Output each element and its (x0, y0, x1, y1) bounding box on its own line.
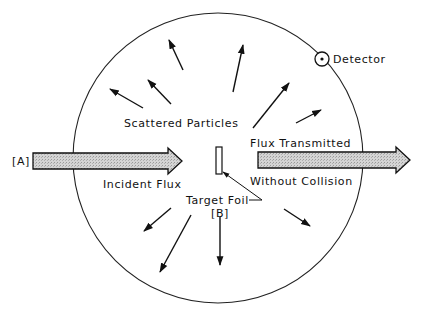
arrow-icon (160, 215, 191, 272)
arrow-icon (169, 40, 183, 70)
marker-a-label: [A] (12, 155, 30, 168)
arrow-icon (110, 89, 143, 108)
scattering-diagram: Detector Scattered Particles [A] Inciden… (0, 0, 422, 316)
marker-b-label: [B] (211, 207, 229, 220)
detector-circle-icon (315, 52, 329, 66)
target-foil (216, 147, 222, 174)
arrow-icon (284, 209, 310, 226)
arrow-icon (253, 83, 289, 128)
arrow-icon (233, 45, 243, 92)
scattered-particles-label: Scattered Particles (124, 117, 238, 130)
arrow-icon (144, 208, 171, 231)
arrow-icon (148, 80, 171, 104)
incident-flux-label: Incident Flux (103, 178, 182, 191)
transmitted-beam-arrow (258, 147, 410, 173)
without-collision-label: Without Collision (250, 175, 353, 188)
incident-beam-arrow (33, 148, 182, 174)
detector-label: Detector (333, 53, 386, 66)
arrow-icon (296, 110, 321, 123)
target-foil-label: Target Foil (185, 194, 249, 207)
flux-transmitted-label: Flux Transmitted (250, 137, 351, 150)
